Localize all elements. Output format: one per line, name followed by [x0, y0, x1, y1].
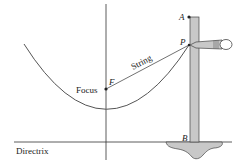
point-a-label: A	[178, 12, 185, 22]
point-p-dot	[188, 44, 190, 46]
focus-label: Focus	[76, 85, 98, 95]
point-b-label: B	[182, 133, 188, 143]
parabola-curve	[24, 44, 189, 109]
post	[190, 17, 199, 142]
focus-dot	[104, 87, 107, 90]
focus-point-label: F	[108, 77, 115, 87]
string-label: String	[129, 52, 154, 71]
string-line	[106, 45, 189, 89]
point-p-label: P	[179, 37, 186, 47]
parabola-diagram: Focus F String P A B Directrix	[0, 0, 247, 168]
point-a-dot	[187, 15, 190, 18]
directrix-label: Directrix	[16, 146, 49, 156]
ground-base	[166, 142, 222, 159]
